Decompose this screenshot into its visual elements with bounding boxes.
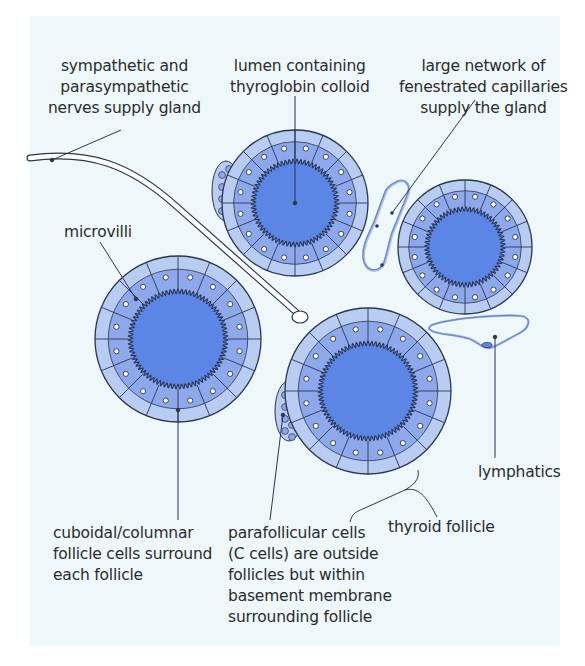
thyroid-follicle-bracket [350, 470, 437, 522]
parafollicular-label: parafollicular cells (C cells) are outsi… [228, 523, 392, 628]
follicle-cells-label: cuboidal/columnar follicle cells surroun… [53, 523, 212, 586]
lymphatic-vessel [429, 315, 528, 348]
follicle-left [95, 256, 261, 422]
nerves-label: sympathetic and parasympathetic nerves s… [48, 56, 201, 119]
follicle-bottom-center [275, 308, 451, 474]
lymphatics-label: lymphatics [478, 462, 561, 483]
microvilli-label: microvilli [64, 222, 132, 243]
capillaries-label: large network of fenestrated capillaries… [399, 56, 568, 119]
lumen-colloid [325, 348, 412, 435]
lumen-colloid [135, 296, 222, 383]
follicles-group [95, 130, 532, 474]
lumen-colloid [430, 212, 499, 281]
follicle-right [398, 180, 532, 314]
lumen-label: lumen containing thyroglobin colloid [230, 56, 370, 98]
thyroid-follicle-label: thyroid follicle [388, 517, 495, 538]
